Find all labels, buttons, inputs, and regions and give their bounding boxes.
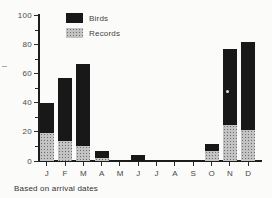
x-tick: [156, 162, 157, 166]
x-tick: [46, 162, 47, 166]
bar-birds-o9: [205, 144, 219, 151]
bar-birds-d11: [241, 42, 255, 131]
x-tick-label: F: [57, 169, 73, 178]
x-tick-label: A: [167, 169, 183, 178]
bar-birds-n10: [223, 49, 237, 125]
scan-artifact-dash: [2, 66, 7, 67]
x-tick-label: O: [204, 169, 220, 178]
bar-records-m2: [76, 146, 90, 161]
x-tick-label: J: [130, 169, 146, 178]
x-tick: [138, 162, 139, 166]
bar-records-j0: [40, 133, 54, 161]
legend-item-birds: Birds: [66, 13, 120, 23]
bar-records-d11: [241, 130, 255, 161]
bar-chart-figure: 020406080100JFMAMJJASOND Birds Records B…: [0, 0, 272, 198]
x-tick: [248, 162, 249, 166]
bar-birds-j5: [131, 155, 145, 161]
y-tick: [34, 161, 39, 162]
x-tick-label: J: [149, 169, 165, 178]
x-tick-label: J: [39, 169, 55, 178]
y-tick-label: 80: [6, 40, 32, 49]
y-tick: [35, 146, 39, 147]
y-tick: [35, 88, 39, 89]
y-tick-label: 40: [6, 98, 32, 107]
x-tick: [83, 162, 84, 166]
scan-artifact-speck: [226, 90, 229, 93]
y-tick-label: 100: [6, 11, 32, 20]
y-tick: [35, 117, 39, 118]
y-tick: [34, 102, 39, 103]
bar-birds-j0: [40, 103, 54, 134]
x-tick-label: A: [94, 169, 110, 178]
y-tick: [35, 59, 39, 60]
bar-birds-f1: [58, 78, 72, 141]
records-swatch: [66, 28, 83, 38]
birds-swatch: [66, 13, 83, 23]
y-tick-label: 20: [6, 127, 32, 136]
bar-birds-m2: [76, 64, 90, 147]
bar-records-n10: [223, 125, 237, 161]
chart-caption: Based on arrival dates: [14, 184, 98, 193]
x-tick: [119, 162, 120, 166]
x-tick: [229, 162, 230, 166]
legend-label-records: Records: [89, 29, 120, 38]
legend-label-birds: Birds: [89, 14, 108, 23]
y-tick-label: 0: [6, 157, 32, 166]
legend: Birds Records: [66, 13, 120, 43]
x-tick-label: N: [222, 169, 238, 178]
x-tick: [65, 162, 66, 166]
x-tick: [211, 162, 212, 166]
bar-records-o9: [205, 151, 219, 161]
y-tick: [35, 30, 39, 31]
x-tick-label: S: [185, 169, 201, 178]
y-tick: [34, 73, 39, 74]
bar-birds-a3: [95, 151, 109, 158]
legend-item-records: Records: [66, 28, 120, 38]
x-tick: [174, 162, 175, 166]
x-tick: [193, 162, 194, 166]
x-tick-label: D: [240, 169, 256, 178]
x-tick-label: M: [112, 169, 128, 178]
y-tick: [34, 131, 39, 132]
x-tick: [101, 162, 102, 166]
x-tick-label: M: [75, 169, 91, 178]
y-tick: [34, 15, 39, 16]
y-tick-label: 60: [6, 69, 32, 78]
bar-records-a3: [95, 158, 109, 161]
bar-records-f1: [58, 141, 72, 161]
y-tick: [34, 44, 39, 45]
